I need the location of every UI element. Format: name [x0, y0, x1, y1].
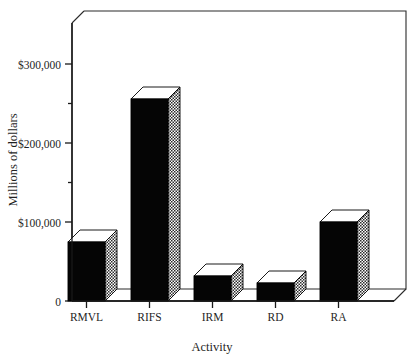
- bar-RMVL: [68, 230, 117, 301]
- bar-RIFS-side: [168, 87, 180, 301]
- bar-IRM: [194, 264, 243, 301]
- y-tick-label-100000: $100,000: [18, 217, 61, 230]
- chart-canvas: 0 $100,000 $200,000 $300,000: [0, 0, 418, 362]
- x-tick-label-IRM: IRM: [202, 311, 224, 323]
- bar-IRM-front: [194, 276, 231, 301]
- bar-RIFS-front: [131, 99, 168, 301]
- bar-RA-front: [320, 222, 357, 301]
- frame-depth-topleft: [72, 11, 84, 23]
- y-axis-title: Millions of dollars: [6, 113, 20, 206]
- bar-RD: [257, 271, 306, 301]
- y-tick-label-0: 0: [55, 296, 61, 308]
- bar-chart-figure: 0 $100,000 $200,000 $300,000: [0, 0, 418, 362]
- bar-RA-side: [357, 210, 369, 301]
- x-tick-label-RIFS: RIFS: [137, 311, 161, 323]
- bar-RIFS: [131, 87, 180, 301]
- bar-RMVL-front: [68, 242, 105, 301]
- frame-depth-bottomright: [394, 289, 406, 301]
- x-axis-title: Activity: [192, 340, 234, 354]
- x-axis-ticks: [87, 301, 339, 308]
- y-tick-label-300000: $300,000: [18, 59, 61, 72]
- x-tick-label-RA: RA: [331, 311, 348, 323]
- y-tick-label-200000: $200,000: [18, 138, 61, 151]
- bar-RD-front: [257, 283, 294, 301]
- bar-RA: [320, 210, 369, 301]
- bars-group: [68, 87, 369, 301]
- x-tick-label-RMVL: RMVL: [70, 311, 103, 323]
- x-tick-label-RD: RD: [268, 311, 284, 323]
